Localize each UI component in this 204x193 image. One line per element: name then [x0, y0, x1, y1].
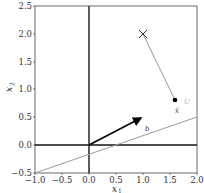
y-tick-label: 2.0 — [18, 29, 32, 39]
point-x-hat — [173, 98, 178, 103]
point-x-cross-icon — [139, 30, 147, 38]
y-tick-label: 2.5 — [18, 1, 32, 11]
svg-text:x: x — [112, 184, 117, 193]
annotation-x-hat: x̂ — [175, 107, 179, 115]
x-tick-label: −1.0 — [25, 175, 46, 185]
y-tick-label: 0.0 — [18, 140, 32, 150]
x-tick-label: 0.0 — [82, 175, 96, 185]
y-axis-label: x 2 — [4, 82, 15, 92]
plot-frame — [35, 6, 197, 173]
annotation-b: b — [145, 125, 150, 133]
svg-text:1: 1 — [118, 187, 122, 193]
x-axis-label: x 1 — [112, 184, 122, 193]
x-tick-label: 1.0 — [136, 175, 150, 185]
x-tick-label: 2.0 — [190, 175, 204, 185]
y-tick-label: 1.5 — [18, 57, 32, 67]
vector-b — [89, 118, 141, 145]
annotation-U: U — [184, 98, 191, 106]
projection-line — [143, 34, 175, 100]
y-tick-label: 0.5 — [18, 112, 32, 122]
projection-chart: b x̂ U 2.5 2.0 1.5 1.0 0.5 0.0 −0.5 −1.0… — [0, 0, 204, 193]
x-tick-label: −0.5 — [52, 175, 73, 185]
svg-text:2: 2 — [8, 82, 15, 86]
y-tick-label: 1.0 — [18, 84, 32, 94]
x-tick-label: 1.5 — [163, 175, 177, 185]
svg-text:x: x — [4, 87, 14, 92]
